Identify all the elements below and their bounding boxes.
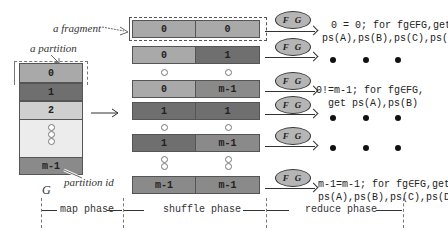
fg-arrow-line	[265, 57, 315, 58]
arrowhead-icon	[309, 52, 319, 62]
ellipsis-dot	[48, 124, 55, 131]
ellipsis-dot	[225, 163, 232, 170]
ellipsis-dot	[161, 163, 168, 170]
map-phase-label: map phase	[60, 204, 114, 215]
partition-label: a partition	[30, 42, 77, 54]
reduce-phase-line	[376, 210, 402, 211]
partition-0: 0	[19, 63, 83, 83]
map-arrow-icon	[90, 108, 120, 118]
ellipsis-dot	[363, 57, 369, 63]
fg-arrow-line	[265, 114, 315, 115]
fg-ellipse: F G	[275, 11, 311, 29]
fragment-label: a fragment	[53, 22, 101, 34]
fg-arrow-line	[265, 31, 315, 32]
fragment-0-right: 0	[195, 20, 260, 38]
fragment-2-left: 0	[132, 80, 196, 98]
arrowhead-icon	[309, 141, 319, 151]
phase-divider	[266, 198, 267, 228]
shuffle-phase-line	[243, 210, 265, 211]
phase-divider	[123, 198, 124, 228]
fragment-5-right: m-1	[195, 176, 260, 194]
ellipsis-dot	[330, 57, 336, 63]
phase-divider	[403, 198, 404, 228]
partition-2: 2	[19, 101, 83, 120]
fragment-2-right: m-1	[195, 80, 260, 98]
result-1-line2: get ps(A),ps(B)	[316, 97, 424, 110]
partition-1: 1	[19, 83, 83, 101]
ellipsis-dot	[225, 124, 232, 131]
reduce-phase-line	[267, 210, 289, 211]
result-0-line1: 0 = 0; for fg∈FG,get	[322, 19, 448, 32]
fg-ellipse: F G	[275, 96, 311, 114]
fragment-1-right: 1	[195, 46, 260, 64]
graph-g-label: G	[42, 183, 51, 198]
ellipsis-dot	[363, 115, 369, 121]
reduce-phase-label: reduce phase	[305, 204, 377, 215]
fg-arrow-line	[265, 188, 315, 189]
ellipsis-dot	[330, 115, 336, 121]
arrowhead-icon	[309, 183, 319, 193]
shuffle-phase-label: shuffle phase	[163, 204, 241, 215]
map-phase-line	[107, 210, 122, 211]
result-2-line1: m-1=m-1; for fg∈FG,get	[318, 178, 448, 191]
fragment-5-left: m-1	[132, 176, 196, 194]
ellipsis-dot	[161, 69, 168, 76]
partition-id-label: partition id	[64, 176, 114, 188]
fg-arrow-line	[265, 91, 315, 92]
ellipsis-dot	[48, 131, 55, 138]
ellipsis-dot	[363, 145, 369, 151]
fragment-0-left: 0	[132, 20, 196, 38]
fg-ellipse: F G	[275, 72, 311, 90]
result-0-line2: ps(A),ps(B),ps(C),ps(D)	[322, 32, 448, 45]
result-1: 0!=m-1; for fg∈FG, get ps(A),ps(B)	[316, 84, 424, 110]
fg-ellipse: F G	[275, 127, 311, 145]
fragment-3-left: 1	[132, 102, 196, 120]
arrowhead-icon	[309, 109, 319, 119]
shuffle-phase-line	[124, 210, 144, 211]
fragment-1-left: 0	[132, 46, 196, 64]
fg-arrow-line	[265, 146, 315, 147]
map-phase-line	[42, 210, 57, 211]
ellipsis-dot	[161, 156, 168, 163]
phase-divider	[41, 198, 42, 228]
result-2-line2: ps(A),ps(B),ps(C),ps(D)	[318, 191, 448, 204]
ellipsis-dot	[161, 124, 168, 131]
ellipsis-dot	[48, 138, 55, 145]
ellipsis-dot	[330, 145, 336, 151]
result-1-line1: 0!=m-1; for fg∈FG,	[316, 84, 424, 97]
ellipsis-dot	[395, 57, 401, 63]
fragment-4-left: 1	[132, 134, 196, 152]
fg-ellipse: F G	[275, 169, 311, 187]
fragment-4-right: m-1	[195, 134, 260, 152]
result-2: m-1=m-1; for fg∈FG,get ps(A),ps(B),ps(C)…	[318, 178, 448, 204]
result-0: 0 = 0; for fg∈FG,get ps(A),ps(B),ps(C),p…	[322, 19, 448, 45]
ellipsis-dot	[395, 115, 401, 121]
ellipsis-dot	[225, 69, 232, 76]
fragment-pointer-arrow-icon	[102, 24, 130, 36]
fg-ellipse: F G	[275, 38, 311, 56]
arrowhead-icon	[309, 26, 319, 36]
ellipsis-dot	[395, 145, 401, 151]
ellipsis-dot	[225, 156, 232, 163]
fragment-3-right: 1	[195, 102, 260, 120]
